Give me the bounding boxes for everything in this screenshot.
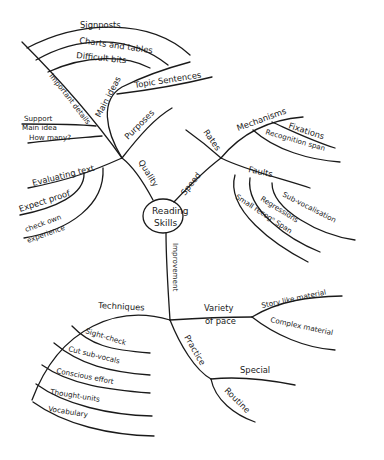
how-many-label: How many? (29, 133, 71, 142)
variety-label-line1: Variety (204, 303, 233, 313)
techniques-label: Techniques (97, 300, 145, 312)
rates-label: Rates (201, 127, 223, 152)
central-label-line2: Skills (154, 218, 177, 228)
cut-sub-vocals-label: Cut sub-vocals (68, 344, 122, 366)
special-label: Special (240, 365, 270, 375)
mind-map-canvas: Reading Skills Quality Purposes Main ide… (0, 0, 384, 460)
variety-label-line2: of pace (205, 316, 236, 326)
speed-label: Speed (179, 170, 203, 197)
routine-label: Routine (223, 385, 253, 415)
main-idea-label: Main idea (22, 123, 57, 132)
important-details-label: Important details (47, 72, 92, 126)
improvement-label: Improvement (171, 243, 180, 292)
support-label: Support (24, 114, 53, 123)
quality-label: Quality (136, 158, 160, 189)
signposts-label: Signposts (80, 20, 121, 30)
central-label-line1: Reading (152, 206, 189, 216)
improvement-branch-line (166, 233, 170, 320)
mechanisms-label: Mechanisms (235, 106, 287, 133)
faults-label: Faults (248, 164, 274, 179)
story-like-label: Story like material (261, 287, 327, 310)
sight-check-label: Sight-check (84, 326, 128, 347)
special-line (211, 378, 295, 385)
evaluating-text-label: Evaluating text (31, 163, 96, 188)
thought-units-label: Thought-units (49, 387, 101, 404)
difficult-bits-label: Difficult bits (76, 50, 127, 65)
practice-label: Practice (182, 333, 207, 367)
